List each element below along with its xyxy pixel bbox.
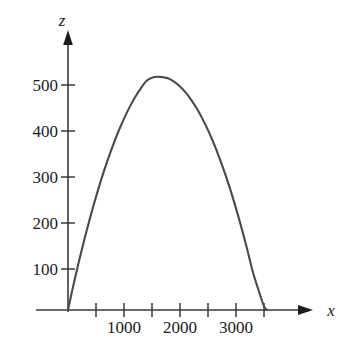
x-axis-title: x bbox=[326, 301, 335, 320]
x-tick-label-3000: 3000 bbox=[219, 318, 253, 337]
x-axis-arrow-icon bbox=[298, 305, 313, 315]
y-tick-label-100: 100 bbox=[33, 260, 59, 279]
x-tick-label-1000: 1000 bbox=[107, 318, 141, 337]
y-tick-label-500: 500 bbox=[33, 76, 59, 95]
y-tick-label-300: 300 bbox=[33, 168, 59, 187]
y-axis-title: z bbox=[58, 11, 66, 30]
data-curve-line bbox=[68, 77, 267, 310]
parabola-plot: 500 400 300 200 100 1000 2000 3000 z x bbox=[0, 0, 360, 358]
y-axis-arrow-icon bbox=[63, 30, 73, 45]
chart-figure: 500 400 300 200 100 1000 2000 3000 z x bbox=[0, 0, 360, 358]
y-tick-label-200: 200 bbox=[33, 214, 59, 233]
y-tick-label-400: 400 bbox=[33, 122, 59, 141]
x-tick-label-2000: 2000 bbox=[163, 318, 197, 337]
